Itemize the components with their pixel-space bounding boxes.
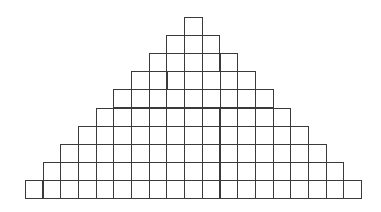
- grid-cell: [273, 126, 292, 145]
- grid-cell: [131, 71, 150, 90]
- grid-cell: [167, 71, 186, 90]
- grid-cell: [166, 126, 185, 145]
- grid-cell: [220, 126, 239, 145]
- grid-cell: [326, 180, 345, 199]
- grid-cell: [308, 162, 327, 181]
- grid-cell: [290, 162, 309, 181]
- grid-cell: [202, 71, 221, 90]
- grid-cell: [184, 71, 203, 90]
- grid-cell: [149, 180, 168, 199]
- grid-cell: [60, 180, 79, 199]
- grid-cell: [220, 162, 239, 181]
- grid-cell: [255, 126, 274, 145]
- grid-cell: [237, 108, 256, 127]
- grid-cell: [237, 89, 256, 108]
- grid-cell: [149, 89, 168, 108]
- pyramid-grid-diagram: [0, 0, 381, 212]
- grid-cell: [78, 144, 97, 163]
- grid-cell: [131, 162, 150, 181]
- grid-cell: [237, 126, 256, 145]
- grid-cell: [290, 180, 309, 199]
- grid-cell: [202, 89, 221, 108]
- grid-cell: [255, 180, 274, 199]
- grid-cell: [113, 108, 132, 127]
- grid-cell: [96, 144, 115, 163]
- grid-cell: [113, 144, 132, 163]
- grid-cell: [78, 180, 97, 199]
- grid-cell: [113, 126, 132, 145]
- grid-cell: [149, 71, 168, 90]
- grid-cell: [96, 162, 115, 181]
- grid-cell: [113, 89, 132, 108]
- grid-cell: [149, 144, 168, 163]
- grid-cell: [220, 53, 239, 72]
- grid-cell: [255, 144, 274, 163]
- grid-cell: [237, 71, 256, 90]
- grid-cell: [166, 53, 185, 72]
- grid-cell: [149, 108, 168, 127]
- grid-cell: [202, 53, 221, 72]
- grid-cell: [202, 162, 221, 181]
- grid-cell: [149, 53, 168, 72]
- grid-cell: [25, 180, 44, 199]
- grid-cell: [220, 180, 239, 199]
- grid-cell: [184, 144, 203, 163]
- grid-cell: [220, 108, 239, 127]
- grid-cell: [166, 89, 185, 108]
- grid-cell: [220, 89, 239, 108]
- grid-cell: [60, 162, 79, 181]
- grid-cell: [149, 126, 168, 145]
- grid-cell: [326, 162, 345, 181]
- grid-cell: [273, 180, 292, 199]
- grid-cell: [343, 180, 362, 199]
- grid-cell: [273, 144, 292, 163]
- grid-cell: [220, 71, 239, 90]
- grid-cell: [308, 180, 327, 199]
- grid-cell: [96, 108, 115, 127]
- grid-cell: [96, 126, 115, 145]
- grid-cell: [131, 126, 150, 145]
- grid-cell: [166, 162, 185, 181]
- grid-cell: [290, 126, 309, 145]
- grid-cell: [60, 144, 79, 163]
- grid-cell: [78, 126, 97, 145]
- grid-cell: [308, 144, 327, 163]
- grid-cell: [96, 180, 115, 199]
- grid-cell: [184, 126, 203, 145]
- grid-cell: [166, 180, 185, 199]
- grid-cell: [184, 89, 203, 108]
- grid-cell: [202, 180, 221, 199]
- grid-cell: [184, 108, 203, 127]
- grid-cell: [131, 144, 150, 163]
- grid-cell: [184, 162, 203, 181]
- grid-cell: [43, 180, 62, 199]
- grid-cell: [184, 180, 203, 199]
- grid-cell: [184, 53, 203, 72]
- grid-cell: [290, 144, 309, 163]
- grid-cell: [202, 144, 221, 163]
- grid-cell: [237, 144, 256, 163]
- grid-cell: [255, 108, 274, 127]
- grid-cell: [220, 144, 239, 163]
- grid-cell: [184, 17, 203, 36]
- grid-cell: [273, 162, 292, 181]
- grid-cell: [78, 162, 97, 181]
- grid-cell: [184, 35, 203, 54]
- grid-cell: [202, 108, 221, 127]
- grid-cell: [113, 162, 132, 181]
- grid-cell: [149, 162, 168, 181]
- grid-cell: [131, 180, 150, 199]
- grid-cell: [166, 108, 185, 127]
- grid-cell: [43, 162, 62, 181]
- grid-cell: [237, 180, 256, 199]
- grid-cell: [255, 89, 274, 108]
- grid-cell: [202, 126, 221, 145]
- grid-cell: [166, 144, 185, 163]
- grid-cell: [131, 89, 150, 108]
- grid-cell: [255, 162, 274, 181]
- grid-cell: [131, 108, 150, 127]
- grid-cell: [237, 162, 256, 181]
- grid-cell: [202, 35, 221, 54]
- grid-cell: [273, 108, 292, 127]
- grid-cell: [113, 180, 132, 199]
